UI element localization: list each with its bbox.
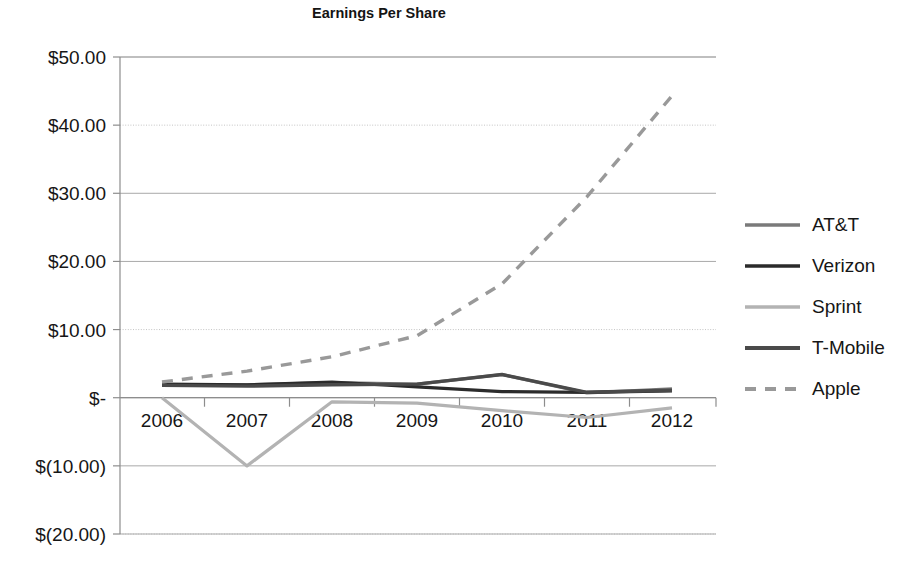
earnings-per-share-chart: Earnings Per Share $50.00$40.00$30.00$20…: [0, 0, 917, 568]
x-axis-label-2006: 2006: [141, 410, 183, 431]
legend-label-sprint[interactable]: Sprint: [812, 296, 862, 317]
x-axis-label-2012: 2012: [651, 410, 693, 431]
y-axis-label: $(10.00): [35, 456, 106, 477]
legend-label-at-t[interactable]: AT&T: [812, 214, 860, 235]
y-axis-label: $10.00: [48, 320, 106, 341]
y-axis-label: $-: [89, 388, 106, 409]
x-axis-label-2009: 2009: [396, 410, 438, 431]
x-axis-label-2007: 2007: [226, 410, 268, 431]
y-axis-label: $(20.00): [35, 524, 106, 545]
chart-container: Earnings Per Share $50.00$40.00$30.00$20…: [0, 0, 917, 568]
legend-label-t-mobile[interactable]: T-Mobile: [812, 337, 885, 358]
y-axis-label: $30.00: [48, 183, 106, 204]
y-axis-label: $40.00: [48, 115, 106, 136]
chart-background: [0, 0, 917, 568]
x-axis-label-2011: 2011: [567, 410, 608, 431]
y-axis-label: $50.00: [48, 47, 106, 68]
y-axis-label: $20.00: [48, 251, 106, 272]
legend-label-verizon[interactable]: Verizon: [812, 255, 875, 276]
chart-title: Earnings Per Share: [312, 5, 446, 21]
legend-label-apple[interactable]: Apple: [812, 378, 861, 399]
